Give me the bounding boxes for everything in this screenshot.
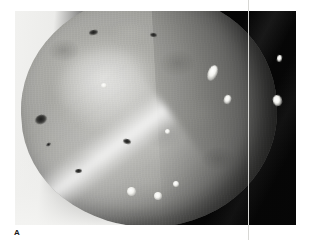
panel-label: A [14, 228, 20, 237]
figure-panel: A [0, 0, 313, 240]
scanline-texture [15, 11, 283, 225]
vertical-seam-line [248, 0, 249, 240]
potato-tuber [15, 11, 283, 225]
potato-photograph [15, 11, 296, 225]
